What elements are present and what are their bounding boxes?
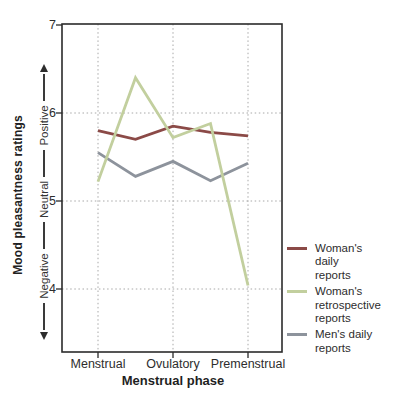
legend-swatch-2 <box>287 333 307 336</box>
legend-label-mens-daily: Men's daily reports <box>315 328 372 355</box>
legend-swatch-0 <box>287 247 307 250</box>
legend-item-womans-daily: Woman's daily reports <box>287 242 381 282</box>
legend: Woman's daily reports Woman's retrospect… <box>287 242 381 358</box>
legend-label-womans-daily: Woman's daily reports <box>315 242 362 282</box>
legend-item-mens-daily: Men's daily reports <box>287 328 381 355</box>
legend-swatch-1 <box>287 290 307 293</box>
x-tick-label-premenstrual: Premenstrual <box>188 357 308 371</box>
legend-item-womans-retrospective: Woman's retrospective reports <box>287 285 381 325</box>
plot-frame <box>62 24 282 352</box>
legend-label-womans-retrospective: Woman's retrospective reports <box>315 285 381 325</box>
x-axis-title: Menstrual phase <box>73 373 273 388</box>
mood-pleasantness-chart: Mood pleasantness ratings Negative Neutr… <box>0 0 401 403</box>
